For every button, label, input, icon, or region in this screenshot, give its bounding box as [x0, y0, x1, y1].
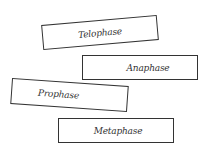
card-label: Metaphase [94, 126, 143, 136]
card-label: Prophase [38, 88, 80, 101]
card-telophase[interactable]: Telophase [41, 15, 159, 50]
card-prophase[interactable]: Prophase [10, 78, 129, 112]
card-metaphase[interactable]: Metaphase [58, 118, 174, 143]
card-anaphase[interactable]: Anaphase [82, 55, 198, 80]
card-label: Telophase [78, 26, 123, 40]
card-label: Anaphase [127, 63, 170, 73]
